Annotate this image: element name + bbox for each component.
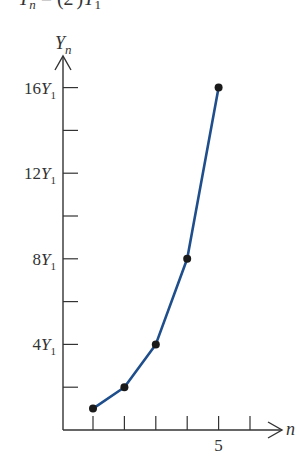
x-axis-tick-labels: 5 — [214, 436, 223, 455]
data-point-marker — [120, 383, 128, 391]
axis-titles: Ynn — [55, 33, 295, 439]
equation-fragment: Yn = (2 )Y1 — [18, 0, 101, 12]
data-series — [89, 84, 223, 413]
exponential-growth-chart: Yn = (2 )Y1 4Y18Y112Y116Y1 5 Ynn — [0, 0, 299, 456]
y-axis-title: Yn — [55, 33, 72, 57]
data-point-marker — [89, 405, 97, 413]
x-axis-ticks — [93, 416, 250, 430]
x-axis-title: n — [286, 419, 295, 439]
y-tick-label: 8Y1 — [33, 250, 56, 272]
data-point-marker — [215, 84, 223, 92]
y-axis-ticks — [63, 88, 78, 388]
y-axis-tick-labels: 4Y18Y112Y116Y1 — [24, 79, 56, 358]
axes — [55, 56, 282, 438]
series-line — [93, 88, 219, 409]
x-tick-label: 5 — [214, 436, 223, 455]
data-point-marker — [152, 340, 160, 348]
y-tick-label: 12Y1 — [24, 164, 56, 186]
y-tick-label: 16Y1 — [24, 79, 56, 101]
data-point-marker — [183, 255, 191, 263]
y-tick-label: 4Y1 — [33, 335, 56, 357]
